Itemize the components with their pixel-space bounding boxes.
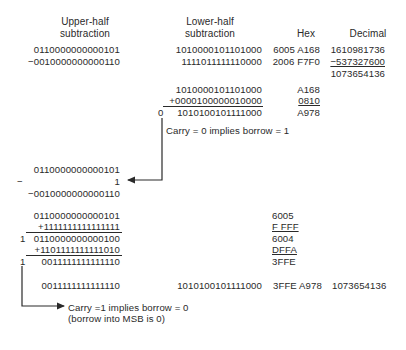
- carry-arrow: [22, 266, 64, 306]
- borrow-arrow: [128, 118, 162, 180]
- arrow-connectors: [0, 0, 406, 350]
